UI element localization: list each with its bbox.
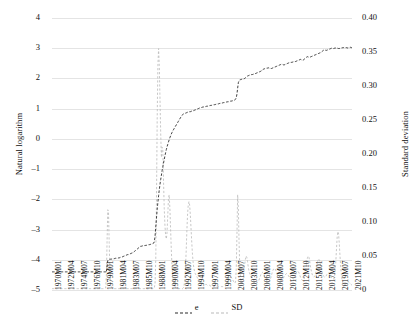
y-axis-right-tick-label: 0.35 [362, 47, 377, 56]
y-axis-left-tick-label: –5 [32, 285, 41, 294]
plot-area [52, 18, 352, 290]
legend-item-e[interactable]: e [175, 303, 199, 312]
legend-label-e: e [195, 303, 199, 312]
y-axis-left-tick-label: 3 [36, 43, 40, 52]
y-axis-left-ticks: 43210–1–2–3–4–5 [0, 0, 48, 322]
x-axis-tick-label: 1979M01 [107, 260, 115, 290]
x-axis-tick-label: 2010M07 [290, 260, 298, 290]
y-axis-left-tick-label: 2 [36, 73, 40, 82]
y-axis-left-tick-label: –3 [32, 225, 41, 234]
y-axis-right-tick-label: 0.25 [362, 115, 377, 124]
x-axis-tick-label: 1990M04 [172, 260, 180, 290]
x-axis-tick-label: 2021M10 [355, 260, 363, 290]
y-axis-left-tick-label: 4 [36, 13, 40, 22]
y-axis-left-tick-label: –1 [32, 164, 41, 173]
chart-legend: eSD [0, 303, 417, 312]
x-axis-tick-label: 2008M04 [277, 260, 285, 290]
y-axis-right-tick-label: 0.30 [362, 81, 377, 90]
legend-label-SD: SD [231, 303, 242, 312]
y-axis-right-tick-label: 0.40 [362, 13, 377, 22]
x-axis-tick-label: 1976M10 [94, 260, 102, 290]
x-axis-tick-label: 2003M10 [251, 260, 259, 290]
y-axis-left-tick-label: 0 [36, 134, 40, 143]
x-axis-tick-label: 1974M07 [81, 260, 89, 290]
x-axis-tick-label: 1999M04 [225, 260, 233, 290]
x-axis-tick-label: 1983M07 [133, 260, 141, 290]
x-axis-tick-label: 2012M10 [303, 260, 311, 290]
y-axis-right-tick-label: 0.20 [362, 149, 377, 158]
y-axis-left-tick-label: –4 [32, 255, 41, 264]
y-axis-right-tick-label: 0.15 [362, 183, 377, 192]
x-axis-tick-label: 2006M01 [264, 260, 272, 290]
x-axis-tick-label: 2017M04 [329, 260, 337, 290]
series-line-e [52, 47, 352, 272]
y-axis-right-tick-label: 0.10 [362, 217, 377, 226]
series-line-SD [52, 49, 352, 289]
chart-figure: Natural logarithm Standard deviation 432… [0, 0, 417, 322]
y-axis-right-title: Standard deviation [400, 94, 410, 194]
legend-swatch-SD [211, 306, 228, 308]
x-axis-tick-label: 1994M10 [198, 260, 206, 290]
x-axis-tick-label: 1970M01 [55, 260, 63, 290]
x-axis-tick-label: 1997M01 [212, 260, 220, 290]
x-axis-tick-label: 2001M07 [238, 260, 246, 290]
x-axis-tick-label: 2019M07 [342, 260, 350, 290]
x-axis-tick-label: 1972M04 [68, 260, 76, 290]
x-axis-tick-label: 1985M10 [146, 260, 154, 290]
y-axis-right-tick-label: 0.05 [362, 251, 377, 260]
x-axis-tick-label: 2015M01 [316, 260, 324, 290]
y-axis-left-tick-label: –2 [32, 194, 41, 203]
gridline [52, 290, 352, 291]
x-axis-tick-label: 1992M07 [185, 260, 193, 290]
legend-item-SD[interactable]: SD [211, 303, 242, 312]
series-layer [52, 18, 352, 290]
x-axis-tick-label: 1988M01 [159, 260, 167, 290]
legend-swatch-e [175, 306, 192, 308]
y-axis-left-tick-label: 1 [36, 104, 40, 113]
x-axis-tick-label: 1981M04 [120, 260, 128, 290]
